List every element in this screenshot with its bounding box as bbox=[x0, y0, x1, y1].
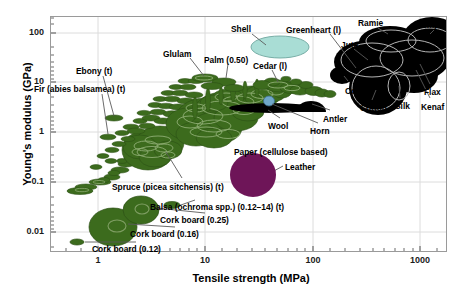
xtick-100: 100 bbox=[290, 255, 336, 265]
label-kenaf: Kenaf bbox=[421, 103, 444, 111]
ashby-chart-figure: 100 10 1 0.1 0.01 1 10 100 1000 Tensile … bbox=[0, 0, 462, 296]
y-axis-title: Young's modulus (GPa) bbox=[21, 44, 33, 204]
ytick-0.01: 0.01 bbox=[4, 226, 44, 236]
x-axis-title: Tensile strength (MPa) bbox=[131, 272, 371, 284]
label-coir: Coir bbox=[345, 87, 362, 95]
label-jute: Jute bbox=[341, 41, 358, 49]
ytick-100: 100 bbox=[4, 27, 44, 37]
label-antler: Antler bbox=[323, 115, 347, 123]
label-balsa: Balsa (ochroma spp.) (0.12–14) (t) bbox=[150, 203, 284, 211]
bubble-leather bbox=[230, 153, 276, 197]
label-horn: Horn bbox=[310, 127, 330, 135]
label-wool: Wool bbox=[268, 122, 288, 130]
label-silk: Silk bbox=[395, 102, 410, 110]
label-greenheart: Greenheart (l) bbox=[286, 26, 341, 34]
bubble-coir bbox=[330, 66, 354, 84]
label-glulam: Glulam bbox=[163, 50, 191, 58]
label-palm: Palm (0.50) bbox=[204, 56, 248, 64]
bubble-fir bbox=[100, 134, 116, 140]
label-fir: Fir (abies balsamea) (t) bbox=[34, 85, 125, 93]
label-corkboard-012: Cork board (0.12) bbox=[92, 245, 161, 253]
label-leather: Leather bbox=[285, 163, 315, 171]
xtick-10: 10 bbox=[182, 255, 228, 265]
label-spruce: Spruce (picea sitchensis) (t) bbox=[112, 183, 224, 191]
bubble-shell bbox=[251, 36, 309, 58]
label-cotton: Cotton bbox=[360, 104, 387, 112]
label-corkboard-025: Cork board (0.25) bbox=[160, 216, 229, 224]
xtick-1: 1 bbox=[75, 255, 121, 265]
label-ramie: Ramie bbox=[358, 19, 383, 27]
label-flax: Flax bbox=[424, 88, 441, 96]
label-shell: Shell bbox=[231, 25, 251, 33]
label-corkboard-016: Cork board (0.16) bbox=[130, 230, 199, 238]
label-cedar: Cedar (l) bbox=[253, 62, 287, 70]
bubble-cork-012 bbox=[70, 239, 84, 245]
chart-canvas bbox=[0, 0, 462, 296]
label-ebony: Ebony (t) bbox=[76, 67, 112, 75]
bubble-group-ebony-fir bbox=[100, 115, 123, 140]
label-paper: Paper (cellulose based) bbox=[234, 148, 328, 156]
bubble-antler bbox=[296, 101, 326, 112]
label-hemp: Hemp bbox=[416, 21, 439, 29]
xtick-1000: 1000 bbox=[397, 255, 443, 265]
